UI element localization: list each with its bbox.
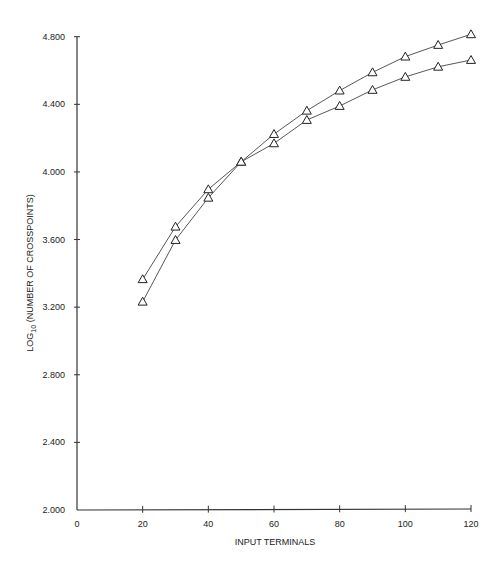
x-tick-label: 80	[335, 519, 345, 529]
triangle-marker-icon	[270, 139, 279, 147]
y-tick-label: 4.400	[42, 99, 65, 109]
y-tick-label: 2.000	[42, 505, 65, 515]
y-tick-label: 3.600	[42, 235, 65, 245]
triangle-marker-icon	[335, 102, 344, 110]
axes: 2.0002.4002.8003.2003.6004.0004.4004.800…	[42, 32, 478, 529]
x-tick-label: 0	[74, 519, 79, 529]
triangle-marker-icon	[368, 85, 377, 93]
triangle-marker-icon	[368, 68, 377, 76]
x-tick-label: 60	[269, 519, 279, 529]
series-lower-curve	[138, 56, 475, 306]
triangle-marker-icon	[401, 52, 410, 60]
triangle-marker-icon	[467, 30, 476, 38]
line-chart: 2.0002.4002.8003.2003.6004.0004.4004.800…	[0, 0, 498, 565]
y-axis-title-subscript: 10	[30, 325, 37, 333]
triangle-marker-icon	[204, 185, 213, 193]
series-group	[138, 30, 475, 305]
triangle-marker-icon	[270, 130, 279, 138]
triangle-marker-icon	[138, 275, 147, 283]
y-axis-title-suffix: (NUMBER OF CROSSPOINTS)	[25, 194, 35, 325]
triangle-marker-icon	[302, 106, 311, 114]
series-line	[143, 34, 471, 279]
y-tick-label: 3.200	[42, 302, 65, 312]
triangle-marker-icon	[335, 86, 344, 94]
triangle-marker-icon	[171, 236, 180, 244]
y-tick-label: 4.000	[42, 167, 65, 177]
y-tick-label: 4.800	[42, 32, 65, 42]
x-tick-label: 40	[203, 519, 213, 529]
y-tick-label: 2.400	[42, 437, 65, 447]
series-upper-curve	[138, 30, 475, 283]
x-tick-label: 100	[398, 519, 413, 529]
triangle-marker-icon	[302, 116, 311, 124]
triangle-marker-icon	[467, 56, 476, 64]
x-tick-label: 120	[463, 519, 478, 529]
series-line	[143, 60, 471, 302]
y-axis-title-prefix: LOG	[25, 333, 35, 352]
x-tick-label: 20	[138, 519, 148, 529]
y-tick-label: 2.800	[42, 370, 65, 380]
y-axis-title: LOG10 (NUMBER OF CROSSPOINTS)	[25, 194, 37, 351]
triangle-marker-icon	[138, 297, 147, 305]
triangle-marker-icon	[237, 157, 246, 165]
x-axis-title: INPUT TERMINALS	[235, 537, 316, 547]
